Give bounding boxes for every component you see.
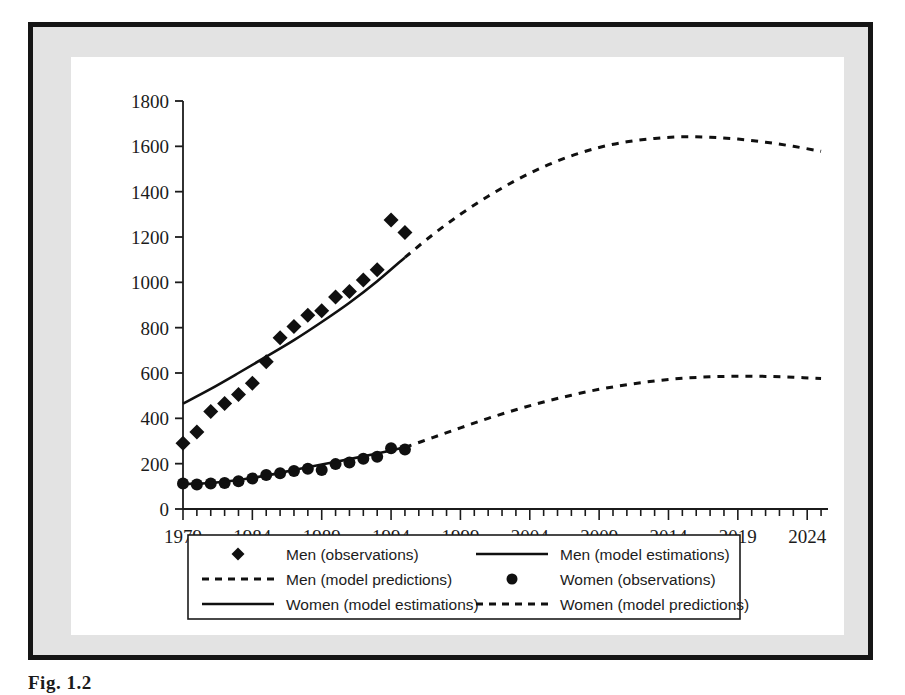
legend-label: Women (model predictions): [560, 596, 749, 613]
legend-label: Men (model estimations): [560, 546, 730, 563]
data-point-diamond: [176, 436, 191, 451]
figure-frame: 0200400600800100012001400160018001979198…: [28, 22, 873, 660]
data-point-diamond: [273, 330, 288, 345]
data-point-diamond: [203, 404, 218, 419]
y-axis-tick-label: 1000: [131, 272, 169, 293]
data-point-diamond: [384, 213, 399, 228]
y-axis-tick-label: 0: [160, 499, 170, 520]
data-point-diamond: [356, 273, 371, 288]
chart-svg: 0200400600800100012001400160018001979198…: [71, 57, 844, 635]
data-point-diamond: [342, 284, 357, 299]
legend-label: Men (model predictions): [286, 571, 452, 588]
y-axis-tick-label: 1800: [131, 91, 169, 112]
data-point-diamond: [231, 387, 246, 402]
y-axis-tick-label: 800: [141, 318, 170, 339]
data-point-diamond: [217, 396, 232, 411]
series-0: [176, 213, 413, 451]
legend-label: Men (observations): [286, 546, 419, 563]
legend-label: Women (model estimations): [286, 596, 479, 613]
chart-canvas: 0200400600800100012001400160018001979198…: [71, 57, 844, 635]
data-point-diamond: [370, 262, 385, 277]
y-axis-tick-label: 1200: [131, 227, 169, 248]
y-axis-tick-label: 600: [141, 363, 170, 384]
legend-layer: Men (observations)Men (model estimations…: [188, 535, 749, 619]
data-point-diamond: [328, 290, 343, 305]
y-axis-tick-label: 1600: [131, 136, 169, 157]
legend-circle-icon: [507, 574, 518, 585]
data-point-diamond: [314, 303, 329, 318]
data-point-diamond: [286, 319, 301, 334]
figure-caption: Fig. 1.2: [28, 672, 528, 695]
x-axis-tick-label: 2024: [788, 526, 827, 547]
data-point-diamond: [300, 308, 315, 323]
prediction-curve: [405, 376, 821, 447]
figure-plot-area: 0200400600800100012001400160018001979198…: [71, 57, 844, 635]
legend-label: Women (observations): [560, 571, 716, 588]
y-axis-tick-label: 200: [141, 454, 170, 475]
data-point-diamond: [189, 424, 204, 439]
series-5: [405, 376, 821, 447]
data-point-diamond: [397, 225, 412, 240]
prediction-curve: [405, 137, 821, 258]
y-axis-tick-label: 1400: [131, 182, 169, 203]
series-2: [405, 137, 821, 258]
series-layer: [176, 137, 822, 491]
data-point-diamond: [245, 376, 260, 391]
y-axis-tick-label: 400: [141, 408, 170, 429]
